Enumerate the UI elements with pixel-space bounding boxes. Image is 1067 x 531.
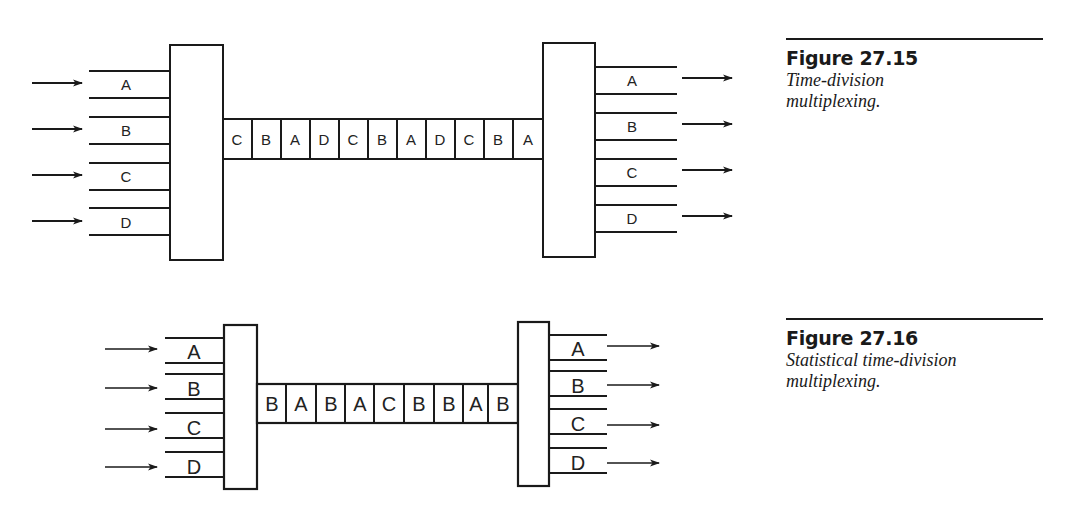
figure-caption-27-16: Figure 27.16 Statistical time-division m… [786, 318, 1046, 392]
output-label: B [627, 118, 637, 135]
demultiplexer-box [543, 43, 595, 257]
caption-rule [786, 318, 1043, 320]
frame-slot: B [324, 393, 337, 415]
frame-slot: C [348, 131, 359, 148]
input-arrows [105, 349, 157, 467]
frame-slot: D [435, 131, 446, 148]
figure-title: Figure 27.16 [786, 326, 1046, 350]
input-label: B [121, 122, 131, 139]
multiplexer-box [170, 45, 223, 260]
input-label: B [187, 378, 200, 400]
frame-slot: A [294, 393, 308, 415]
input-channels [89, 71, 170, 235]
input-label: D [187, 456, 201, 478]
output-arrows [607, 346, 659, 463]
frame-slot: B [265, 393, 278, 415]
frame-slot: A [406, 131, 416, 148]
output-label: C [571, 413, 585, 435]
input-label: C [121, 168, 132, 185]
multiplexer-box [224, 325, 257, 489]
frame-slot: B [442, 393, 455, 415]
output-label: D [571, 452, 585, 474]
figure-caption-27-15: Figure 27.15 Time-division multiplexing. [786, 38, 1046, 112]
frame-slot: C [232, 131, 243, 148]
output-label: C [627, 164, 638, 181]
frame-slot: B [493, 131, 503, 148]
input-label: D [121, 214, 132, 231]
input-arrows [32, 83, 82, 221]
figure-description: Statistical time-division multiplexing. [786, 350, 986, 392]
frame-slot: A [469, 393, 483, 415]
frame-slot: A [290, 131, 300, 148]
frame-slot: B [261, 131, 271, 148]
output-channels [595, 67, 677, 232]
frame-slot: B [377, 131, 387, 148]
input-label: C [187, 417, 201, 439]
figure-description: Time-division multiplexing. [786, 70, 966, 112]
input-label: A [187, 341, 201, 363]
output-label: D [627, 210, 638, 227]
frame-slot: C [464, 131, 475, 148]
output-arrows [682, 78, 732, 216]
output-label: B [571, 375, 584, 397]
output-label: A [627, 72, 637, 89]
frame-slot: B [496, 393, 509, 415]
frame-slot: B [412, 393, 425, 415]
demultiplexer-box [518, 322, 549, 486]
figure-title: Figure 27.15 [786, 46, 1046, 70]
frame-slot: C [382, 393, 396, 415]
input-label: A [121, 76, 131, 93]
caption-rule [786, 38, 1043, 40]
output-label: A [571, 338, 585, 360]
frame-slot: A [353, 393, 367, 415]
frame-slot: A [523, 131, 533, 148]
frame-slot: D [319, 131, 330, 148]
